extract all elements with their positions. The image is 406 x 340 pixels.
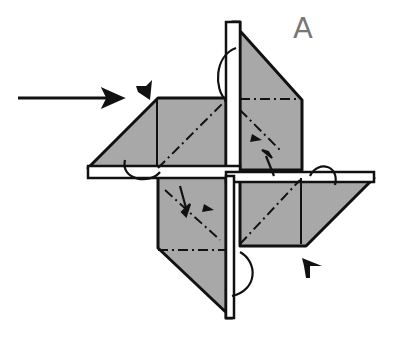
- horizontal-gap-left: [88, 166, 240, 178]
- insertion-arrow: [18, 90, 122, 106]
- fold-diagram-svg: [0, 0, 406, 340]
- top-flap: [232, 22, 302, 170]
- vertical-gap-top: [226, 22, 240, 172]
- bottom-flap: [158, 176, 232, 318]
- corner-marker-lower-right: [302, 258, 322, 278]
- right-flap: [240, 178, 374, 246]
- corner-marker-upper-left: [136, 80, 152, 100]
